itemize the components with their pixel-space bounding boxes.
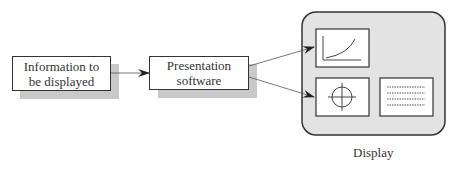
text-lines-panel — [380, 78, 433, 116]
graph-panel — [316, 29, 369, 67]
display-caption: Display — [353, 145, 393, 161]
crosshair-panel — [316, 78, 369, 116]
